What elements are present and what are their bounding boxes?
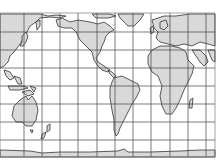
world-map-svg xyxy=(0,0,223,163)
world-map xyxy=(0,0,223,163)
british-isles xyxy=(150,26,154,34)
europe xyxy=(152,14,215,46)
